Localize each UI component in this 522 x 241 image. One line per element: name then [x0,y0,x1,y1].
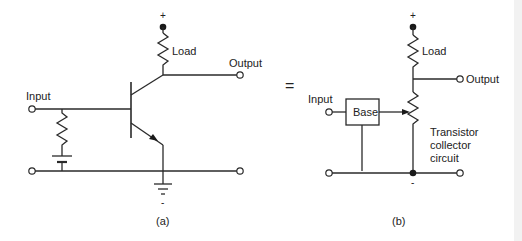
panel-b-load-label: Load [422,45,446,57]
panel-a-minus-label: - [161,197,164,208]
panel-b-output-terminal [457,76,463,82]
panel-b-base-label: Base [353,106,378,118]
panel-b-ground-node [410,170,417,177]
panel-a-caption: (a) [156,215,169,227]
panel-b-caption: (b) [392,215,405,227]
panel-b-input-terminal [326,109,332,115]
panel-b-minus-label: - [411,177,414,188]
panel-a-input-terminal [29,106,35,112]
panel-a-input-label: Input [26,90,50,102]
panel-a-output-label: Output [229,57,262,69]
panel-b-equivalent-circuit: + Load Output Input Base Transistor coll… [308,10,499,227]
panel-b-plus-label: + [410,10,416,21]
panel-a-common-input-terminal [29,168,35,174]
panel-a-plus-label: + [160,10,166,21]
panel-a-output-terminal [237,72,243,78]
panel-a-load-label: Load [172,45,196,57]
panel-a-common-output-terminal [237,168,243,174]
panel-b-variable-resistor-icon [408,92,418,171]
ground-icon [154,184,172,194]
equals-sign: = [285,77,294,94]
transistor-label-line2: collector [430,139,471,151]
panel-a-transistor-circuit: + Load Output Input [26,10,262,227]
panel-b-load-resistor-icon [408,35,418,92]
panel-b-output-label: Output [466,73,499,85]
panel-a-bias-resistor-icon [57,109,67,156]
npn-transistor-icon [131,75,163,184]
transistor-label-line3: circuit [430,152,459,164]
panel-b-input-label: Input [308,93,332,105]
circuit-diagram: + Load Output Input [0,0,522,241]
panel-b-common-input-terminal [326,170,332,176]
panel-a-load-resistor-icon [158,33,168,75]
panel-a-battery-icon [52,156,72,171]
panel-b-common-output-terminal [457,170,463,176]
transistor-label-line1: Transistor [430,126,479,138]
